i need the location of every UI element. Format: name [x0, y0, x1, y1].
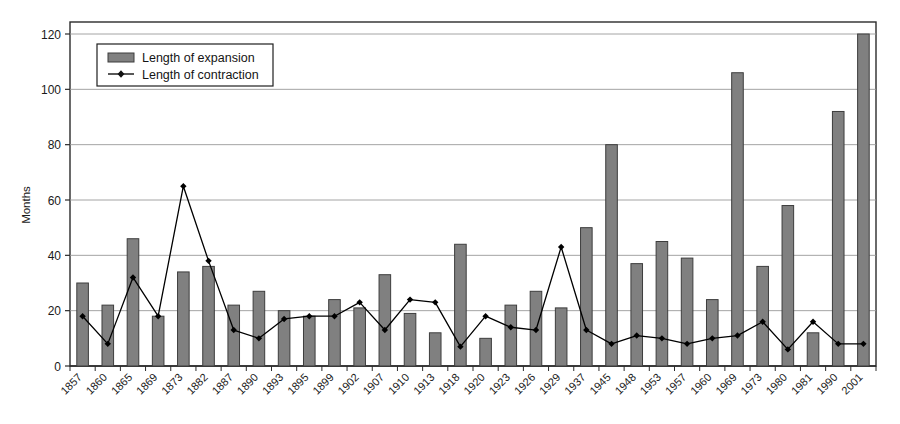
bar-1920 [480, 338, 492, 366]
bar-2001 [858, 34, 870, 366]
bar-1981 [807, 333, 819, 366]
bar-1899 [329, 300, 341, 366]
business-cycle-chart: 020406080100120 185718601865186918731882… [0, 0, 900, 424]
bar-1937 [581, 228, 593, 366]
bar-1860 [102, 305, 114, 366]
bar-1923 [505, 305, 517, 366]
bar-1969 [732, 73, 744, 366]
bar-1890 [253, 291, 265, 366]
bar-1882 [203, 266, 215, 366]
bar-1980 [782, 206, 794, 366]
bar-1887 [228, 305, 240, 366]
bar-1948 [631, 264, 643, 366]
legend-bar-swatch [108, 53, 134, 62]
y-tick-label: 0 [54, 360, 61, 374]
bar-1960 [706, 300, 718, 366]
bar-1945 [606, 145, 618, 366]
bar-1902 [354, 308, 366, 366]
bar-1865 [127, 239, 139, 366]
y-tick-label: 80 [48, 138, 62, 152]
y-tick-label: 40 [48, 249, 62, 263]
y-tick-label: 120 [41, 28, 61, 42]
bar-1990 [832, 111, 844, 366]
y-tick-label: 60 [48, 194, 62, 208]
bar-1953 [656, 242, 668, 367]
bar-1907 [379, 275, 391, 366]
bar-1929 [555, 308, 567, 366]
chart-legend: Length of expansion Length of contractio… [97, 44, 273, 86]
chart-figure: 020406080100120 185718601865186918731882… [0, 0, 900, 424]
legend-label-expansion: Length of expansion [142, 51, 255, 65]
bar-1873 [178, 272, 190, 366]
bar-1895 [303, 316, 315, 366]
bar-1857 [77, 283, 89, 366]
bar-1973 [757, 266, 769, 366]
bar-1913 [429, 333, 441, 366]
y-tick-label: 100 [41, 83, 61, 97]
y-tick-label: 20 [48, 304, 62, 318]
bar-1910 [404, 313, 416, 366]
bar-1957 [681, 258, 693, 366]
y-axis-title: Months [20, 186, 32, 224]
legend-label-contraction: Length of contraction [142, 68, 259, 82]
bar-1869 [152, 316, 164, 366]
